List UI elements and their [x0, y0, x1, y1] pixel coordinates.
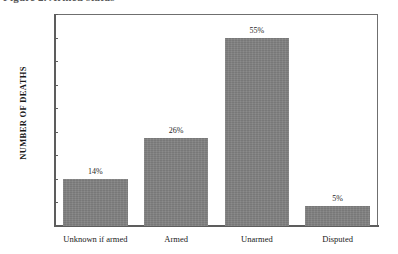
bar-value-label: 55% [250, 26, 265, 35]
bar-group: 55%Unarmed [225, 0, 290, 226]
bar-value-label: 5% [332, 194, 343, 203]
bar[interactable] [305, 206, 370, 226]
bar-value-label: 14% [88, 167, 103, 176]
y-axis-tick-mark [54, 202, 58, 203]
bar-group: 5%Disputed [305, 0, 370, 226]
y-axis-tick-mark [54, 61, 58, 62]
y-axis-tick-mark [54, 85, 58, 86]
bar-group: 14%Unknown if armed [63, 0, 128, 226]
bar-value-label: 26% [169, 126, 184, 135]
y-axis-tick-mark [54, 226, 58, 227]
x-axis-label: Disputed [322, 234, 353, 244]
y-axis-tick-mark [54, 38, 58, 39]
x-axis-label: Unknown if armed [63, 234, 127, 244]
y-axis-line [54, 14, 56, 227]
y-axis-tick-mark [54, 179, 58, 180]
bar[interactable] [144, 138, 209, 226]
x-axis-label: Armed [164, 234, 188, 244]
bar[interactable] [225, 38, 290, 226]
y-axis-tick-mark [54, 155, 58, 156]
y-axis-title: NUMBER OF DEATHS [18, 38, 28, 188]
y-axis-tick-mark [54, 14, 58, 15]
bar-chart: NUMBER OF DEATHS 02550751001251501752002… [0, 0, 398, 254]
x-axis-label: Unarmed [241, 234, 273, 244]
y-axis-tick-mark [54, 132, 58, 133]
bar-group: 26%Armed [144, 0, 209, 226]
y-axis-tick-mark [54, 108, 58, 109]
bar[interactable] [63, 179, 128, 226]
